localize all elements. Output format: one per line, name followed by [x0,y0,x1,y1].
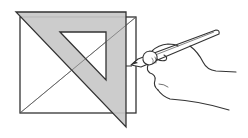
illustration: Hand drawing a line with a pencil along … [0,0,248,138]
set-square [16,12,126,127]
